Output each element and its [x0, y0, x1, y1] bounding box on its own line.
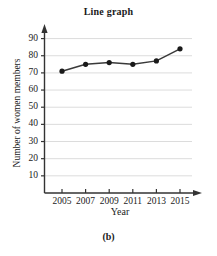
x-axis-arrowhead: [193, 190, 202, 196]
data-point-marker: [154, 58, 159, 63]
figure-caption: (b): [0, 231, 217, 242]
data-point-marker: [83, 62, 88, 67]
y-tick-label: 90: [16, 34, 38, 44]
y-tick-label: 40: [16, 119, 38, 129]
data-point-marker: [130, 62, 135, 67]
y-tick-label: 30: [16, 137, 38, 147]
y-tick-label: 60: [16, 85, 38, 95]
data-point-marker: [59, 69, 64, 74]
data-point-marker: [107, 60, 112, 65]
y-tick-label: 80: [16, 51, 38, 61]
gridlines-group: [45, 39, 193, 176]
y-tick-label: 70: [16, 68, 38, 78]
figure-container: Line graph Number of women members 90807…: [0, 0, 217, 256]
data-line: [62, 49, 180, 71]
y-tick-label: 20: [16, 154, 38, 164]
y-axis-arrowhead: [41, 24, 47, 33]
y-tick-label: 50: [16, 102, 38, 112]
y-tick-label: 10: [16, 171, 38, 181]
data-point-marker: [177, 46, 182, 51]
x-axis-label: Year: [40, 206, 200, 217]
data-point-markers-group: [59, 46, 182, 74]
